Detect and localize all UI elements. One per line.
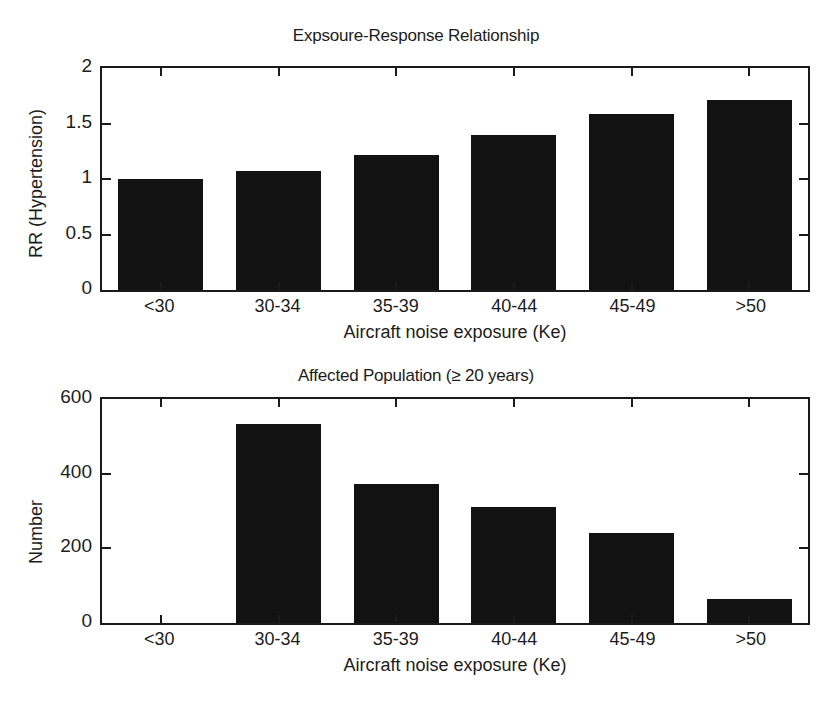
x-tick-mark — [631, 615, 633, 623]
y-tick-label: 0 — [81, 610, 92, 632]
bar — [354, 155, 439, 290]
x-tick-label: 30-34 — [218, 296, 336, 317]
x-tick-mark — [631, 282, 633, 290]
x-tick-mark — [395, 615, 397, 623]
x-tick-label: 35-39 — [337, 296, 455, 317]
x-tick-mark — [160, 399, 162, 407]
x-tick-label: 35-39 — [337, 629, 455, 650]
x-tick-mark — [160, 615, 162, 623]
x-tick-mark — [278, 68, 280, 76]
y-tick-label: 400 — [60, 461, 92, 483]
bar — [589, 114, 674, 290]
x-tick-label: 45-49 — [573, 629, 691, 650]
y-tick-label: 1 — [81, 166, 92, 188]
y-tick-label: 2 — [81, 55, 92, 77]
x-tick-mark — [631, 399, 633, 407]
y-tick-mark — [102, 178, 111, 180]
y-tick-mark — [799, 234, 808, 236]
y-tick-label: 0 — [81, 277, 92, 299]
y-tick-mark — [102, 547, 111, 549]
x-tick-label: >50 — [692, 629, 810, 650]
y-tick-mark — [102, 234, 111, 236]
y-tick-mark — [102, 123, 111, 125]
x-tick-label: 45-49 — [573, 296, 691, 317]
chart-title: Expsoure-Response Relationship — [0, 26, 832, 46]
y-tick-mark — [102, 473, 111, 475]
x-tick-label: >50 — [692, 296, 810, 317]
x-tick-label: 30-34 — [218, 629, 336, 650]
y-tick-label: 600 — [60, 386, 92, 408]
bar — [236, 424, 321, 623]
x-axis-title-2: Aircraft noise exposure (Ke) — [100, 655, 810, 676]
y-axis-tick-labels-1: 00.511.52 — [6, 66, 92, 292]
x-tick-label: 40-44 — [455, 296, 573, 317]
x-tick-mark — [278, 282, 280, 290]
x-tick-mark — [395, 68, 397, 76]
y-tick-label: 1.5 — [66, 111, 92, 133]
bars-container-1 — [102, 68, 808, 290]
x-tick-mark — [748, 615, 750, 623]
x-tick-mark — [513, 282, 515, 290]
x-tick-label: <30 — [100, 296, 218, 317]
x-axis-title-1: Aircraft noise exposure (Ke) — [100, 322, 810, 343]
x-tick-mark — [748, 68, 750, 76]
x-tick-mark — [748, 399, 750, 407]
bar — [589, 533, 674, 623]
bar — [471, 507, 556, 623]
chart-affected-population: Affected Population (≥ 20 years) 0200400… — [0, 356, 832, 712]
x-tick-mark — [278, 615, 280, 623]
x-tick-mark — [160, 282, 162, 290]
x-tick-mark — [160, 68, 162, 76]
y-axis-title-2: Number — [26, 500, 47, 564]
bar — [354, 484, 439, 623]
y-axis-tick-labels-2: 0200400600 — [6, 397, 92, 625]
y-tick-mark — [799, 547, 808, 549]
y-tick-label: 200 — [60, 535, 92, 557]
x-tick-mark — [278, 399, 280, 407]
x-tick-mark — [513, 615, 515, 623]
x-tick-mark — [395, 282, 397, 290]
y-tick-mark — [799, 123, 808, 125]
bar — [236, 171, 321, 290]
bar — [707, 100, 792, 290]
x-axis-tick-labels-2: <3030-3435-3940-4445-49>50 — [100, 629, 810, 650]
plot-area-2 — [100, 397, 810, 625]
x-tick-mark — [748, 282, 750, 290]
x-tick-label: 40-44 — [455, 629, 573, 650]
plot-area-1 — [100, 66, 810, 292]
y-axis-title-1: RR (Hypertension) — [26, 109, 47, 258]
x-tick-label: <30 — [100, 629, 218, 650]
x-tick-mark — [513, 68, 515, 76]
y-tick-mark — [799, 178, 808, 180]
bar — [118, 179, 203, 290]
y-tick-label: 0.5 — [66, 222, 92, 244]
x-axis-tick-labels-1: <3030-3435-3940-4445-49>50 — [100, 296, 810, 317]
x-tick-mark — [395, 399, 397, 407]
bars-container-2 — [102, 399, 808, 623]
y-tick-mark — [799, 473, 808, 475]
x-tick-mark — [631, 68, 633, 76]
chart-exposure-response: Expsoure-Response Relationship 00.511.52… — [0, 0, 832, 356]
bar — [471, 135, 556, 290]
figure-page: Expsoure-Response Relationship 00.511.52… — [0, 0, 832, 712]
x-tick-mark — [513, 399, 515, 407]
chart-title: Affected Population (≥ 20 years) — [0, 366, 832, 386]
